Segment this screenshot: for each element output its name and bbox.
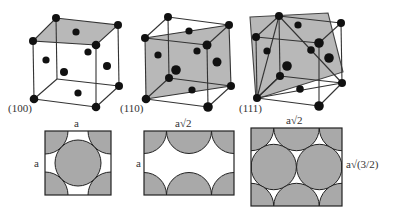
cube-111-label: (111) <box>239 102 262 115</box>
packing-110-height-label: a <box>136 157 141 169</box>
cube-100-label: (100) <box>8 102 32 115</box>
packing-111-height-label: a√(3/2) <box>346 158 379 171</box>
packing-100-width-label: a <box>74 117 79 129</box>
cube-110-label: (110) <box>120 102 144 115</box>
packing-100-height-label: a <box>34 157 39 169</box>
packing-111-width-label: a√2 <box>286 114 302 126</box>
packing-110-width-label: a√2 <box>175 117 191 129</box>
fcc-planes-figure: (100) (110) <box>0 0 400 211</box>
